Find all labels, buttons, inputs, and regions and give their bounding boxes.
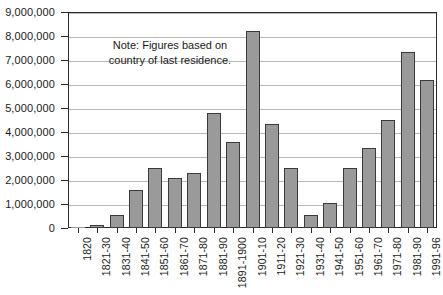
x-axis-tick-label: 1931-40: [315, 237, 326, 276]
x-axis-tick-mark: [427, 228, 428, 233]
bar: [304, 215, 318, 228]
y-axis-tick-mark: [61, 36, 68, 37]
y-axis-tick-mark: [61, 84, 68, 85]
y-axis-tick-mark: [61, 60, 68, 61]
bar: [129, 190, 143, 228]
bar: [362, 148, 376, 228]
y-axis-tick-label: 0: [49, 223, 55, 234]
x-axis-tick-label: 1851-60: [159, 237, 170, 276]
y-axis-tick-label: 9,000,000: [5, 7, 55, 18]
x-axis-tick-label: 1831-40: [121, 237, 132, 276]
x-axis-tick-mark: [408, 228, 409, 233]
y-axis-tick-label: 5,000,000: [5, 103, 55, 114]
immigration-bar-chart: 01,000,0002,000,0003,000,0004,000,0005,0…: [0, 0, 443, 295]
x-axis-tick-label: 1971-80: [392, 237, 403, 276]
chart-note: Note: Figures based on country of last r…: [90, 38, 250, 68]
bar: [284, 168, 298, 228]
x-axis-tick-label: 1841-50: [140, 237, 151, 276]
chart-note-line-1: Note: Figures based on: [90, 38, 250, 53]
bar: [420, 80, 434, 228]
y-axis-tick-mark: [61, 156, 68, 157]
bar: [148, 168, 162, 228]
bar: [265, 124, 279, 228]
x-axis-tick-mark: [194, 228, 195, 233]
y-axis-tick-mark: [61, 132, 68, 133]
x-axis-tick-label: 1901-10: [257, 237, 268, 276]
x-axis-tick-mark: [291, 228, 292, 233]
y-axis-tick-label: 8,000,000: [5, 31, 55, 42]
x-axis-tick-label: 1871-80: [198, 237, 209, 276]
y-axis-tick-label: 6,000,000: [5, 79, 55, 90]
x-axis-tick-mark: [117, 228, 118, 233]
y-axis-tick-mark: [61, 228, 68, 229]
y-axis-tick-mark: [61, 108, 68, 109]
bar: [343, 168, 357, 228]
chart-note-line-2: country of last residence.: [90, 53, 250, 68]
x-axis-tick-label: 1961-70: [373, 237, 384, 276]
x-axis: 18201821-301831-401841-501851-601861-701…: [68, 228, 437, 295]
x-axis-tick-label: 1881-90: [218, 237, 229, 276]
x-axis-tick-label: 1911-20: [276, 237, 287, 275]
x-axis-tick-label: 1861-70: [179, 237, 190, 276]
y-axis-tick-label: 4,000,000: [5, 127, 55, 138]
x-axis-tick-mark: [350, 228, 351, 233]
x-axis-tick-label: 1921-30: [295, 237, 306, 276]
x-axis-tick-mark: [175, 228, 176, 233]
x-axis-tick-mark: [214, 228, 215, 233]
y-axis-tick-mark: [61, 204, 68, 205]
bar: [168, 178, 182, 228]
x-axis-tick-mark: [311, 228, 312, 233]
bar: [187, 173, 201, 228]
x-axis-tick-mark: [330, 228, 331, 233]
bar: [401, 52, 415, 228]
x-axis-tick-mark: [272, 228, 273, 233]
y-axis-tick-mark: [61, 12, 68, 13]
x-axis-tick-mark: [253, 228, 254, 233]
y-axis-tick-label: 7,000,000: [5, 55, 55, 66]
x-axis-tick-mark: [233, 228, 234, 233]
y-axis-tick-label: 2,000,000: [5, 175, 55, 186]
x-axis-tick-mark: [78, 228, 79, 233]
x-axis-tick-label: 1951-60: [354, 237, 365, 276]
x-axis-tick-label: 1891-1900: [237, 237, 248, 288]
bar: [207, 113, 221, 228]
bar: [323, 203, 337, 228]
x-axis-tick-mark: [388, 228, 389, 233]
x-axis-tick-label: 1991-96: [431, 237, 442, 276]
y-axis: 01,000,0002,000,0003,000,0004,000,0005,0…: [0, 0, 64, 295]
bar: [226, 142, 240, 228]
bar: [110, 215, 124, 228]
x-axis-tick-mark: [369, 228, 370, 233]
bar: [381, 120, 395, 228]
x-axis-tick-mark: [97, 228, 98, 233]
x-axis-tick-label: 1820: [82, 237, 93, 261]
y-axis-tick-mark: [61, 180, 68, 181]
y-axis-tick-label: 3,000,000: [5, 151, 55, 162]
x-axis-tick-label: 1821-30: [101, 237, 112, 276]
x-axis-tick-label: 1941-50: [334, 237, 345, 276]
y-axis-tick-label: 1,000,000: [5, 199, 55, 210]
x-axis-tick-mark: [136, 228, 137, 233]
x-axis-tick-mark: [155, 228, 156, 233]
x-axis-tick-label: 1981-90: [412, 237, 423, 276]
